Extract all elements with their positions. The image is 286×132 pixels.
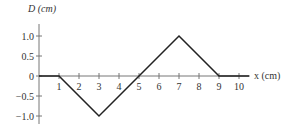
x-tick-label: 3 (97, 81, 102, 92)
y-axis-label: D (cm) (27, 3, 57, 15)
x-tick-label: 7 (177, 81, 182, 92)
chart: 123456789101.00.50−0.5−1.0 D (cm) x (cm) (0, 0, 286, 132)
x-tick-label: 9 (217, 81, 222, 92)
x-tick-label: 6 (157, 81, 162, 92)
axes (39, 24, 250, 124)
x-axis-label: x (cm) (254, 70, 280, 82)
x-tick-label: 4 (117, 81, 122, 92)
x-tick-label: 8 (197, 81, 202, 92)
y-tick-label: 1.0 (22, 31, 35, 42)
y-tick-label: −1.0 (16, 111, 34, 122)
x-tick-label: 1 (57, 81, 62, 92)
y-tick-label: −0.5 (16, 91, 34, 102)
x-tick-label: 2 (77, 81, 82, 92)
y-tick-label: 0 (29, 71, 34, 82)
y-tick-label: 0.5 (22, 51, 35, 62)
x-tick-label: 5 (137, 81, 142, 92)
x-tick-label: 10 (234, 81, 244, 92)
